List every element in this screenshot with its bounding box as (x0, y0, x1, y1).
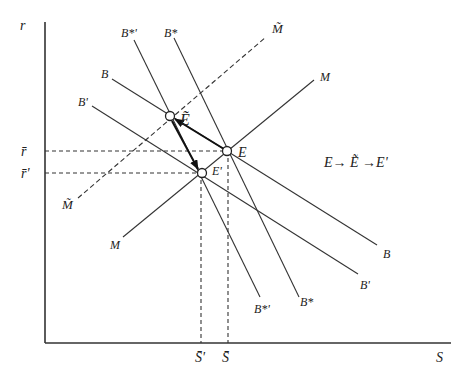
point-e-tilde (166, 112, 175, 121)
point-e-tilde-label: Ẽ (179, 111, 190, 128)
point-e-prime (198, 169, 207, 178)
b-label-top: B (101, 67, 109, 81)
m-label-bottom: M (109, 238, 121, 252)
is-lm-diagram: r S r̄ r̄' S̄' S̄ B*' B* B B' M̃ M M̃ M … (0, 0, 467, 383)
b-star-prime-label-bottom: B*' (254, 302, 270, 316)
b-star-label-top: B* (164, 26, 177, 40)
b-label-bottom: B (383, 247, 391, 261)
point-e (223, 147, 232, 156)
m-tilde-label-bottom: M̃ (61, 197, 74, 212)
b-prime-label-bottom: B' (360, 278, 370, 292)
m-tilde-label-top: M̃ (271, 21, 284, 36)
m-label-top: M (319, 70, 331, 84)
r-bar-label: r̄ (21, 144, 27, 159)
r-bar-prime-label: r̄' (21, 166, 30, 181)
s-bar-prime-label: S̄' (195, 350, 206, 365)
arrow-e-tilde-to-e-prime (172, 121, 198, 169)
b-prime-curve (92, 106, 358, 274)
b-star-curve (174, 38, 299, 297)
point-e-label: E (237, 145, 247, 160)
b-star-prime-label-top: B*' (121, 26, 137, 40)
b-prime-label-top: B' (78, 95, 88, 109)
b-star-label-bottom: B* (300, 295, 313, 309)
x-axis-label: S (436, 350, 443, 365)
s-bar-label: S̄ (222, 350, 229, 365)
transition-annotation: E→ Ẽ →E' (323, 154, 389, 170)
y-axis-label: r (20, 18, 26, 33)
point-e-prime-label: E' (211, 164, 222, 178)
